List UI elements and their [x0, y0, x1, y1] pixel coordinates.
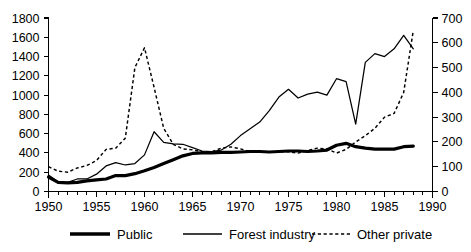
x-axis: 195019551960196519701975198019851990 [35, 192, 447, 214]
x-axis-tick-label: 1990 [419, 200, 447, 214]
y-axis-left-tick-label: 400 [19, 146, 40, 160]
legend-label-public: Public [117, 227, 153, 242]
y-axis-right-tick-label: 0 [442, 185, 449, 199]
chart-legend: PublicForest industryOther private [70, 227, 432, 242]
y-axis-left-tick-label: 1000 [12, 89, 40, 103]
y-axis-right-tick-label: 500 [442, 61, 463, 75]
y-axis-right-tick-label: 400 [442, 86, 463, 100]
y-axis-left-tick-label: 1800 [12, 12, 40, 26]
y-axis-left-tick-label: 200 [19, 166, 40, 180]
x-axis-tick-label: 1980 [323, 200, 351, 214]
y-axis-left-tick-label: 1400 [12, 50, 40, 64]
x-axis-tick-label: 1955 [83, 200, 111, 214]
x-axis-tick-label: 1985 [371, 200, 399, 214]
x-axis-tick-label: 1970 [227, 200, 255, 214]
chart-figure: 020040060080010001200140016001800 010020… [0, 0, 471, 252]
y-axis-right-tick-label: 600 [442, 36, 463, 50]
series-line-forest-industry [49, 35, 414, 182]
x-axis-tick-label: 1950 [35, 200, 63, 214]
x-axis-tick-label: 1960 [131, 200, 159, 214]
line-chart: 020040060080010001200140016001800 010020… [0, 0, 471, 252]
y-axis-right-tick-label: 200 [442, 135, 463, 149]
y-axis-right: 0100200300400500600700 [433, 12, 463, 200]
plot-area: 020040060080010001200140016001800 010020… [12, 12, 463, 242]
x-axis-tick-label: 1975 [275, 200, 303, 214]
legend-label-other-private: Other private [357, 227, 432, 242]
y-axis-left-tick-label: 600 [19, 127, 40, 141]
series-layer [49, 30, 414, 182]
x-axis-tick-label: 1965 [179, 200, 207, 214]
y-axis-left-tick-label: 800 [19, 108, 40, 122]
legend-label-forest-industry: Forest industry [229, 227, 315, 242]
y-axis-left-tick-label: 1600 [12, 31, 40, 45]
series-line-public [49, 143, 414, 183]
y-axis-left-tick-label: 0 [33, 185, 40, 199]
y-axis-left-tick-label: 1200 [12, 69, 40, 83]
y-axis-right-tick-label: 100 [442, 160, 463, 174]
y-axis-right-tick-label: 300 [442, 111, 463, 125]
y-axis-right-tick-label: 700 [442, 12, 463, 26]
y-axis-left: 020040060080010001200140016001800 [12, 12, 49, 200]
